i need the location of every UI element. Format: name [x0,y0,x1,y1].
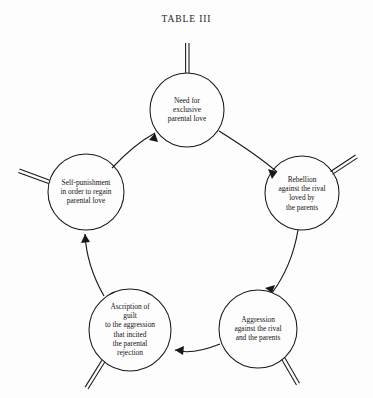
tick-need-for-exclusive-parental-love [186,43,189,73]
tick-aggression-against-the-rival [282,358,300,385]
edge-selfpunishment-to-need [112,133,155,168]
arrow-head-into-selfpunishment [81,234,90,243]
arrow-heads [81,133,277,355]
page-canvas: TABLE III [0,0,373,398]
flow-arcs [85,131,298,352]
node-ticks [18,43,357,389]
node-circle-rebellion-against-the-rival [265,156,339,230]
edge-ascription-to-selfpunishment [85,234,104,296]
node-circle-aggression-against-the-rival [219,290,297,368]
node-circle-ascription-of-guilt [89,289,171,371]
cycle-diagram [0,0,373,398]
node-circle-need-for-exclusive-parental-love [150,73,224,147]
arrow-head-into-ascription [175,346,184,355]
node-circles [48,73,339,371]
edge-need-to-rebellion [219,131,277,172]
edge-rebellion-to-aggression [272,230,298,293]
tick-self-punishment [18,169,50,184]
node-circle-self-punishment [48,154,124,230]
tick-ascription-of-guilt [85,360,105,389]
tick-rebellion-against-the-rival [331,155,358,174]
